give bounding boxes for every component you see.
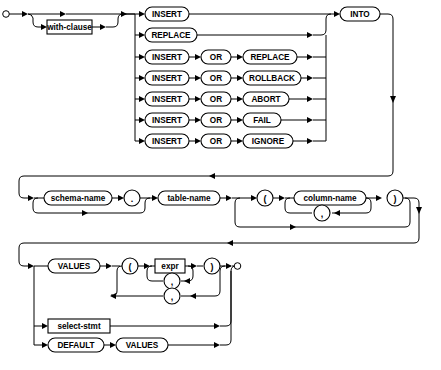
nonterminal-select-stmt-label: select-stmt [57,322,101,331]
start-arrow-icon [22,11,28,17]
row1-wrap-down-arrow-icon [390,96,396,103]
branch-4-or-arrow-icon [195,75,201,81]
branch-7-value-arrow-icon [237,138,243,144]
branch-4-merge-arrow-icon [307,75,313,81]
terminal-insert-6-label: INSERT [152,116,182,125]
values-lparen-arrow-icon [106,263,112,269]
row2-exit-line [403,198,419,203]
terminal-values-label: VALUES [58,262,91,271]
values-row-loop-right-arrow-icon [190,293,196,299]
branch-5-arrow-icon [139,96,145,102]
branch-7-arrow-icon [139,138,145,144]
lparen-arrow-icon [251,195,257,201]
terminal-or-7-label: OR [210,137,222,146]
expr-arrow-icon [144,263,150,269]
table-name-arrow-icon [152,195,158,201]
terminal-fail-label: FAIL [253,116,271,125]
select-stmt-merge-arrow-icon [214,323,220,329]
schema-bypass-arrow-icon [82,210,88,216]
row1-wrap-left-arrow-icon [209,173,215,179]
start-endpoint-icon [3,11,10,18]
branch-6-merge-arrow-icon [307,117,313,123]
nonterminal-schema-name-label: schema-name [51,194,106,203]
row3-entry-arrow-icon [28,263,34,269]
branch-6-value-arrow-icon [237,117,243,123]
with-clause-exit-arrow-icon [100,24,106,30]
terminal-values-default-label: VALUES [126,341,159,350]
branch-1-arrow-icon [139,11,145,17]
terminal-comma-values-row-label: , [171,292,174,302]
column-name-arrow-icon [279,195,285,201]
with-clause-bypass-arrow-icon [60,11,66,17]
terminal-dot-label: . [131,194,134,204]
nonterminal-expr-label: expr [161,262,179,271]
terminal-or-6-label: OR [210,116,222,125]
expr-comma-loop-arrow-icon [184,278,190,284]
branch-3-merge-arrow-icon [307,54,313,60]
terminal-insert-4-label: INSERT [152,74,182,83]
values-row-loop-left-down [112,266,122,296]
terminal-replace-top-label: REPLACE [151,31,191,40]
terminal-insert-3-label: INSERT [152,53,182,62]
insert-stmt-railroad-svg: with-clause INSERT REPLACE INSERT OR REP… [0,0,441,370]
terminal-lparen-columns-label: ( [264,194,267,204]
prefix-split-arrow-icon [121,11,127,17]
column-list-bypass-arrow-icon [290,224,296,230]
branch-3-or-arrow-icon [195,54,201,60]
terminal-or-3-label: OR [210,53,222,62]
branch-3-arrow-icon [139,54,145,60]
default-arrow-icon [42,342,48,348]
nonterminal-column-name-label: column-name [303,194,357,203]
railroad-diagram-canvas: with-clause INSERT REPLACE INSERT OR REP… [0,0,441,370]
terminal-abort-label: ABORT [251,95,280,104]
branch-5-or-arrow-icon [195,96,201,102]
schema-dot-arrow-icon [118,195,124,201]
row2-wrap-down-arrow-icon [416,207,422,214]
branch-4-value-arrow-icon [237,75,243,81]
branch-2-merge-arrow-icon [307,32,313,38]
row2-wrap-left-arrow-icon [227,240,233,246]
branch-7-or-arrow-icon [195,138,201,144]
with-clause-entry-arrow-icon [41,24,47,30]
terminal-rparen-expr-label: ) [211,262,214,272]
terminal-or-5-label: OR [210,95,222,104]
branch-6-or-arrow-icon [195,117,201,123]
terminal-lparen-expr-label: ( [129,262,132,272]
branch-6-arrow-icon [139,117,145,123]
values-row-loop-left-arrow-icon [110,293,116,299]
with-clause-entry-line [28,14,41,27]
terminal-replace-or-label: REPLACE [250,53,290,62]
row2-to-row3-wrap-line [19,203,419,266]
branch-5-merge-arrow-icon [307,96,313,102]
terminal-comma-expr-label: , [171,277,174,287]
into-arrow-icon [334,11,340,17]
nonterminal-table-name-label: table-name [167,194,211,203]
default-values-arrow-icon [110,342,116,348]
nonterminal-with-clause-label: with-clause [46,23,92,32]
branch-2-arrow-icon [139,32,145,38]
terminal-into-label: INTO [350,10,370,19]
terminal-ignore-label: IGNORE [252,137,285,146]
rparen-arrow-icon [376,195,382,201]
select-stmt-arrow-icon [42,323,48,329]
terminal-or-4-label: OR [210,74,222,83]
column-comma-loop-arrow-icon [334,210,340,216]
end-endpoint-icon [234,263,241,270]
terminal-default-label: DEFAULT [57,341,94,350]
terminal-comma-columns-label: , [321,209,324,219]
branch-5-value-arrow-icon [237,96,243,102]
terminal-insert-1-label: INSERT [152,10,182,19]
select-stmt-merge-line [220,266,236,326]
default-values-merge-line [220,271,231,345]
with-clause-rejoin-line [106,14,135,27]
branch-4-arrow-icon [139,75,145,81]
terminal-rparen-columns-label: ) [394,194,397,204]
default-values-merge-arrow-icon [214,342,220,348]
terminal-rollback-label: ROLLBACK [249,74,295,83]
branch-7-merge-arrow-icon [307,138,313,144]
branch-2-merge-line [313,14,331,35]
table-name-exit-arrow-icon [226,195,232,201]
terminal-insert-7-label: INSERT [152,137,182,146]
terminal-insert-5-label: INSERT [152,95,182,104]
branch-3-value-arrow-icon [237,54,243,60]
